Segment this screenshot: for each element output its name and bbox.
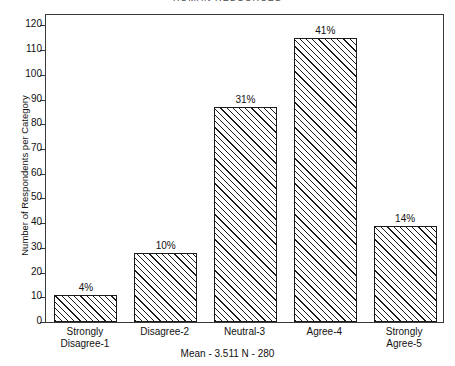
y-axis-tick-label: 60: [2, 167, 42, 178]
bar-1: 4%: [54, 295, 117, 322]
y-axis-tick-label: 100: [2, 68, 42, 79]
bar-value-label-1: 4%: [79, 282, 93, 293]
y-axis-tick-label: 50: [2, 191, 42, 202]
y-axis-tick-label: 30: [2, 241, 42, 252]
y-axis-tick-label: 10: [2, 290, 42, 301]
x-axis-label-line: Strongly: [364, 326, 444, 338]
x-axis-label-line: Disagree-2: [125, 326, 205, 338]
bar-4: 41%: [294, 38, 357, 322]
footer-statistics: Mean - 3.511 N - 280: [0, 348, 455, 359]
x-axis-label-line: Strongly: [45, 326, 125, 338]
y-axis-tick-label: 70: [2, 142, 42, 153]
x-axis-label-5: StronglyAgree-5: [364, 326, 444, 349]
x-axis-label-3: Neutral-3: [205, 326, 285, 338]
bar-value-label-3: 31%: [235, 94, 255, 105]
x-axis-label-2: Disagree-2: [125, 326, 205, 338]
x-axis-label-line: Agree-4: [284, 326, 364, 338]
bar-value-label-2: 10%: [156, 240, 176, 251]
y-axis-tick-label: 80: [2, 117, 42, 128]
y-axis-tick-label: 0: [2, 315, 42, 326]
bar-value-label-4: 41%: [315, 25, 335, 36]
x-axis-label-1: StronglyDisagree-1: [45, 326, 125, 349]
y-axis-tick-label: 40: [2, 216, 42, 227]
plot-frame: 01020304050607080901001101204%10%31%41%1…: [45, 14, 444, 323]
y-axis-tick-label: 110: [2, 43, 42, 54]
y-axis-tick-label: 120: [2, 18, 42, 29]
chart-title: HUMAN RESOURCES: [0, 0, 455, 2]
bar-3: 31%: [214, 107, 277, 322]
x-axis-label-4: Agree-4: [284, 326, 364, 338]
y-axis-tick-label: 20: [2, 266, 42, 277]
bar-value-label-5: 14%: [395, 213, 415, 224]
plot-area: 01020304050607080901001101204%10%31%41%1…: [46, 15, 443, 322]
x-axis-label-line: Neutral-3: [205, 326, 285, 338]
bar-2: 10%: [134, 253, 197, 322]
y-axis-tick-label: 90: [2, 93, 42, 104]
bar-5: 14%: [374, 226, 437, 322]
